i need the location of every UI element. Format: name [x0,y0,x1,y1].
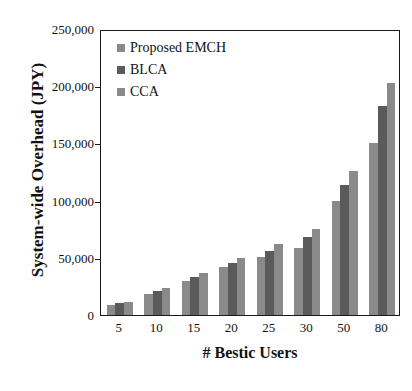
bar-group [144,31,170,315]
y-axis-tick-label: 250,000 [36,22,94,38]
bar-group [257,31,283,315]
bar[interactable] [387,83,396,315]
x-axis-tick-label: 80 [375,320,388,336]
x-axis-tick-label: 15 [187,320,200,336]
y-axis-tick-label: 200,000 [36,79,94,95]
x-axis-tick-label: 25 [262,320,275,336]
bar[interactable] [115,303,124,315]
x-axis-title: # Bestic Users [100,344,400,362]
bar[interactable] [265,251,274,315]
bar[interactable] [153,291,162,315]
x-axis-tick-label: 30 [300,320,313,336]
bar[interactable] [349,171,358,315]
bar[interactable] [107,305,116,315]
y-axis-tick-label: 50,000 [36,251,94,267]
bar[interactable] [182,281,191,315]
bar[interactable] [124,302,133,315]
y-axis-tick-labels: 050,000100,000150,000200,000250,000 [36,30,94,316]
bar-group [294,31,320,315]
x-axis-tick-labels: 510152025305080 [100,320,400,340]
bar[interactable] [274,244,283,315]
bar[interactable] [312,229,321,315]
bar[interactable] [369,143,378,315]
bar-group [182,31,208,315]
y-axis-tick-mark [95,87,101,88]
bar[interactable] [332,201,341,315]
y-axis-tick-label: 100,000 [36,194,94,210]
bar[interactable] [228,263,237,315]
plot-area: Proposed EMCHBLCACCA [100,30,400,316]
bar-group [332,31,358,315]
x-axis-tick-label: 10 [150,320,163,336]
bar[interactable] [257,257,266,315]
bar-series-container [101,31,399,315]
bar[interactable] [340,185,349,315]
bar[interactable] [237,258,246,315]
bar[interactable] [294,248,303,315]
bar[interactable] [219,267,228,315]
bar-chart-figure: System-wide Overhead (JPY) 050,000100,00… [0,0,412,391]
y-axis-tick-label: 150,000 [36,136,94,152]
y-axis-tick-mark [95,202,101,203]
bar-group [107,31,133,315]
y-axis-tick-mark [95,259,101,260]
x-axis-tick-label: 50 [337,320,350,336]
bar[interactable] [162,288,171,315]
bar-group [219,31,245,315]
x-axis-tick-label: 5 [116,320,123,336]
y-axis-tick-label: 0 [36,308,94,324]
bar[interactable] [199,273,208,315]
bar[interactable] [303,237,312,315]
bar-group [369,31,395,315]
x-axis-tick-label: 20 [225,320,238,336]
bar[interactable] [190,277,199,315]
y-axis-tick-mark [95,144,101,145]
bar[interactable] [144,294,153,315]
bar[interactable] [378,106,387,315]
